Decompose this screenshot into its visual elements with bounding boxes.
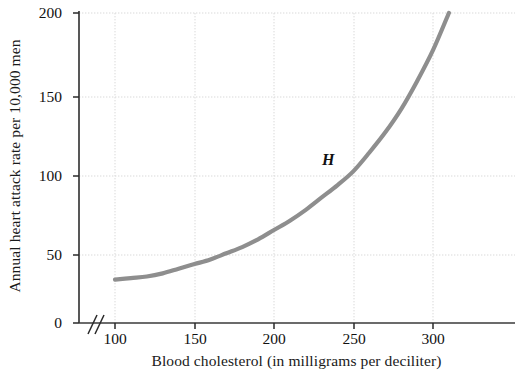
x-axis-title: Blood cholesterol (in milligrams per dec…	[78, 352, 515, 370]
x-tick-label-200: 200	[251, 330, 297, 348]
curve-label-h: H	[322, 151, 334, 169]
y-axis-ticks	[73, 13, 79, 323]
x-tick-label-250: 250	[331, 330, 377, 348]
vertical-gridlines	[115, 13, 433, 323]
y-tick-label-0: 0	[18, 314, 62, 332]
x-tick-label-300: 300	[410, 330, 456, 348]
y-axis-title: Annual heart attack rate per 10,000 men	[6, 1, 24, 331]
plot-canvas	[0, 0, 515, 372]
y-tick-label-100: 100	[18, 167, 62, 185]
data-curve-h	[115, 13, 449, 280]
y-tick-label-50: 50	[18, 246, 62, 264]
x-tick-label-100: 100	[92, 330, 138, 348]
horizontal-gridlines	[79, 13, 515, 255]
y-tick-label-200: 200	[18, 4, 62, 22]
x-axis-ticks	[115, 323, 433, 329]
x-tick-label-150: 150	[172, 330, 218, 348]
chart-figure: 200 150 100 50 0 100 150 200 250 300 H A…	[0, 0, 515, 372]
y-tick-label-150: 150	[18, 88, 62, 106]
